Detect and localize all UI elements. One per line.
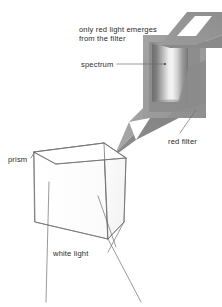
leader-prism — [31, 153, 34, 158]
label-prism: prism — [8, 155, 27, 164]
label-only-red-light-emerges: only red light emergesfrom the filter — [79, 25, 157, 43]
label-red-filter: red filter — [168, 137, 197, 146]
label-emerges-line1: only red light emerges — [79, 25, 157, 34]
diagram-canvas: only red light emergesfrom the filter sp… — [0, 0, 222, 307]
label-emerges-line2: from the filter — [79, 34, 126, 43]
ray-white-light-right-b — [108, 239, 141, 302]
emergent-red-beam — [160, 12, 222, 48]
label-spectrum: spectrum — [81, 60, 113, 69]
optics-diagram-svg — [0, 0, 222, 307]
label-white-light: white light — [53, 249, 88, 258]
